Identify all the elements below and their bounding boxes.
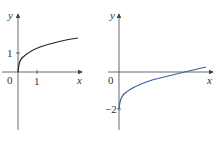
right-y-label: y — [109, 9, 115, 21]
graphs-canvas: y x 0 1 1 y x 0 −2 — [0, 0, 216, 145]
right-curve-sqrt-minus-2 — [119, 67, 206, 109]
left-xtick-label: 1 — [34, 75, 40, 87]
right-x-label: x — [206, 74, 212, 86]
right-origin-label: 0 — [108, 74, 114, 86]
left-ytick-label: 1 — [7, 47, 13, 59]
left-y-label: y — [7, 9, 13, 21]
right-graph: y x 0 −2 — [105, 9, 213, 130]
left-x-label: x — [76, 74, 82, 86]
left-origin-label: 0 — [7, 74, 13, 86]
left-graph: y x 0 1 1 — [2, 9, 82, 130]
left-curve-sqrt — [18, 38, 78, 72]
right-ytick-value: 2 — [111, 103, 117, 115]
right-ytick-label: −2 — [105, 103, 117, 115]
